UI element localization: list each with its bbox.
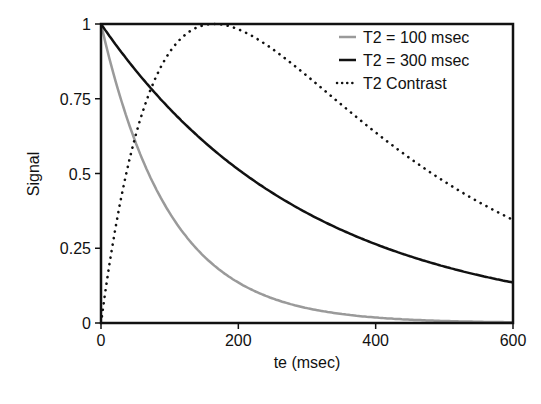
legend-label-1: T2 = 100 msec	[363, 29, 469, 46]
y-axis-ticks: 00.250.50.751	[60, 16, 101, 332]
legend-label-2: T2 = 300 msec	[363, 52, 469, 69]
y-tick-label: 0.25	[60, 240, 91, 257]
x-tick-label: 200	[225, 332, 252, 349]
x-axis-ticks: 0200400600	[97, 323, 527, 349]
y-axis-label: Signal	[25, 152, 42, 196]
x-tick-label: 400	[362, 332, 389, 349]
legend-label-3: T2 Contrast	[363, 75, 447, 92]
x-axis-label: te (msec)	[274, 354, 341, 371]
x-tick-label: 600	[500, 332, 527, 349]
y-tick-label: 0.5	[69, 166, 91, 183]
legend: T2 = 100 msecT2 = 300 msecT2 Contrast	[337, 29, 469, 92]
y-tick-label: 0	[82, 315, 91, 332]
t2-signal-chart: 00.250.50.751 0200400600 te (msec) Signa…	[0, 0, 541, 404]
x-tick-label: 0	[97, 332, 106, 349]
y-tick-label: 1	[82, 16, 91, 33]
y-tick-label: 0.75	[60, 91, 91, 108]
